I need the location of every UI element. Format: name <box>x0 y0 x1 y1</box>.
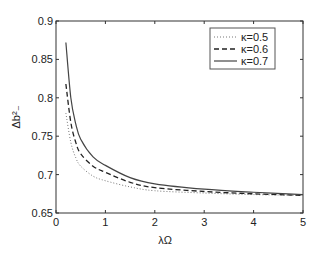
legend-label: κ=0.7 <box>241 55 268 67</box>
x-tick-label: 1 <box>102 216 108 228</box>
series-line-dotted <box>66 113 303 195</box>
line-chart: 0123450.650.70.750.80.850.9 κ=0.5κ=0.6κ=… <box>0 0 320 254</box>
y-tick-label: 0.8 <box>38 92 53 104</box>
x-tick-label: 2 <box>152 216 158 228</box>
legend: κ=0.5κ=0.6κ=0.7 <box>210 28 275 69</box>
y-tick-label: 0.65 <box>32 207 53 219</box>
legend-label: κ=0.6 <box>241 43 268 55</box>
legend-label: κ=0.5 <box>241 31 268 43</box>
x-axis-label: λΩ <box>158 234 172 246</box>
x-tick-label: 0 <box>53 216 59 228</box>
y-tick-label: 0.85 <box>32 53 53 65</box>
series-line-dashed <box>66 84 303 195</box>
x-tick-label: 5 <box>300 216 306 228</box>
y-tick-label: 0.75 <box>32 130 53 142</box>
y-tick-label: 0.7 <box>38 169 53 181</box>
y-tick-label: 0.9 <box>38 15 53 27</box>
x-tick-label: 4 <box>251 216 257 228</box>
x-tick-label: 3 <box>201 216 207 228</box>
y-axis-label: Δb²₋ <box>10 105 22 128</box>
